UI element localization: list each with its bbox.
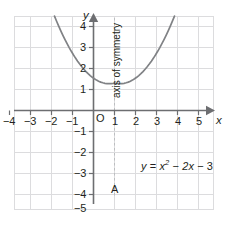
x-axis-label: x <box>216 115 222 127</box>
equation-label: y = x2 − 2x − 3 <box>141 161 213 172</box>
y-axis-label: y <box>83 10 89 22</box>
equation-2x: 2x <box>182 160 194 172</box>
vertex-point-label: A <box>111 184 118 195</box>
x-tick-label-2: 2 <box>133 116 139 127</box>
x-tick-label--4: −4 <box>3 116 15 127</box>
equation-constant: 3 <box>207 160 213 172</box>
axis-of-symmetry-label: axis of symmetry <box>112 23 122 98</box>
x-tick-label--3: −3 <box>24 116 36 127</box>
origin-label: O <box>96 113 105 124</box>
y-tick-label-4: 4 <box>80 21 86 32</box>
x-tick-label--2: −2 <box>45 116 57 127</box>
y-tick-label-2: 2 <box>80 63 86 74</box>
x-tick-label-3: 3 <box>154 116 160 127</box>
y-tick-label--3: −3 <box>74 168 86 179</box>
y-tick-label--1: −1 <box>74 126 86 137</box>
graph-figure: −4 −3 −2 −1 1 2 3 4 5 4 3 2 1 −1 −2 −3 −… <box>0 0 228 229</box>
y-tick-label--4: −4 <box>74 189 86 200</box>
x-tick-label-4: 4 <box>175 116 181 127</box>
y-tick-label-3: 3 <box>80 42 86 53</box>
x-tick-label-5: 5 <box>196 116 202 127</box>
y-tick-label-1: 1 <box>80 84 86 95</box>
x-tick-label-1: 1 <box>112 116 118 127</box>
y-tick-label--5: −5 <box>74 203 86 214</box>
y-tick-label--2: −2 <box>74 147 86 158</box>
y-axis <box>89 13 98 204</box>
